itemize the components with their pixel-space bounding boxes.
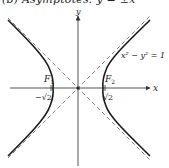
hyperbola-diagram: y x x² − y² = 1 F1 F2 −√2 √2 (0, 0, 169, 168)
y-axis-label: y (75, 7, 81, 16)
focus-right-label: F2 (104, 74, 115, 85)
origin-point (76, 86, 79, 89)
x-axis-label: x (153, 83, 158, 93)
equation-label: x² − y² = 1 (121, 51, 165, 60)
tick-left-label: −√2 (35, 93, 52, 102)
tick-right-label: √2 (103, 93, 113, 102)
